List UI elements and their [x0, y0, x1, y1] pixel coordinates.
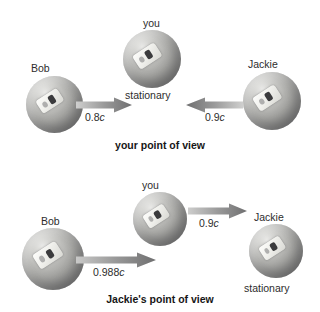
speed-unit: c: [119, 266, 124, 278]
sphere-jackie-top: [243, 72, 301, 130]
label-bob-bottom: Bob: [41, 215, 60, 227]
speed-label-bob-top: 0.8c: [85, 111, 105, 123]
panel-your-point-of-view: Bob you stationary Jackie 0.8c: [0, 0, 320, 158]
label-you-top: you: [143, 17, 160, 29]
label-bob-top: Bob: [31, 62, 50, 74]
label-you-bottom: you: [142, 179, 159, 191]
speed-unit: c: [100, 111, 105, 123]
sphere-you-top: [123, 30, 181, 88]
sphere-jackie-bottom: [249, 224, 303, 278]
figure-patch-icon: [32, 241, 64, 270]
speed-value: 0.8: [85, 111, 100, 123]
figure-patch-icon: [142, 203, 170, 228]
label-jackie-top: Jackie: [248, 58, 278, 70]
caption-your-point-of-view: your point of view: [0, 139, 320, 151]
sphere-you-bottom: [133, 192, 187, 246]
sphere-bob-top: [26, 76, 83, 133]
speed-value: 0.9: [205, 111, 220, 123]
speed-label-you-bottom: 0.9c: [199, 217, 219, 229]
figure-patch-icon: [132, 42, 162, 69]
figure-patch-icon: [252, 84, 282, 111]
speed-label-bob-bottom: 0.988c: [93, 266, 125, 278]
figure-patch-icon: [258, 235, 286, 260]
speed-unit: c: [214, 217, 219, 229]
speed-value: 0.988: [93, 266, 119, 278]
speed-label-jackie-top: 0.9c: [205, 111, 225, 123]
caption-jackies-point-of-view: Jackie's point of view: [0, 293, 320, 305]
speed-value: 0.9: [199, 217, 214, 229]
figure-patch-icon: [35, 88, 64, 115]
panel-jackies-point-of-view: Bob you Jackie stationary 0.988c: [0, 158, 320, 312]
label-jackie-bottom: Jackie: [254, 211, 284, 223]
speed-unit: c: [220, 111, 225, 123]
sphere-bob-bottom: [22, 228, 84, 290]
